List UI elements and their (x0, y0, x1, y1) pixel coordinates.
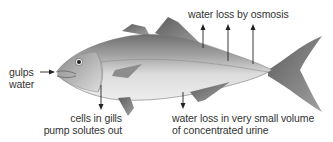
label-cells-in-gills: cells in gills pump solutes out (38, 112, 122, 136)
label-gulps-water: gulps water (9, 66, 34, 90)
label-water-loss-osmosis: water loss by osmosis (188, 8, 289, 20)
arrow-gulps-water (40, 70, 55, 75)
fish-head (58, 52, 102, 92)
tail-fin (268, 36, 322, 112)
fish-osmoregulation-diagram: gulps water water loss by osmosis cells … (0, 0, 333, 142)
label-urine: water loss in very small volume of conce… (172, 112, 314, 136)
